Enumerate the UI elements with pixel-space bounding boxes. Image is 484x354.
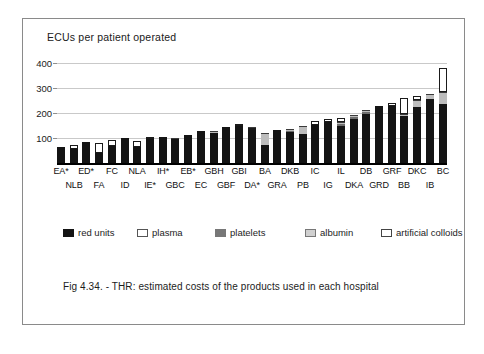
x-axis-label: FC <box>106 166 118 176</box>
bar-segment-albumin <box>299 126 307 134</box>
x-axis-label: GBH <box>204 166 223 176</box>
bar-fc[interactable] <box>108 140 116 163</box>
bar-segment-red-units <box>324 122 332 163</box>
x-axis-label: IH* <box>157 166 169 176</box>
bar-nlb[interactable] <box>70 145 78 163</box>
legend-swatch-icon <box>305 229 316 237</box>
bar-grd[interactable] <box>375 106 383 163</box>
x-axis-label: GRF <box>383 166 402 176</box>
bar-da[interactable] <box>248 127 256 164</box>
bar-gbc[interactable] <box>171 138 179 164</box>
bar-segment-plasma <box>95 143 103 153</box>
legend-item-colloids[interactable]: artificial colloids <box>381 227 463 238</box>
x-axis-label: IB <box>426 180 434 190</box>
bar-segment-red-units <box>388 106 396 163</box>
bar-segment-red-units <box>184 135 192 163</box>
x-axis-label: EA* <box>53 166 68 176</box>
bar-eb[interactable] <box>184 135 192 163</box>
bar-pb[interactable] <box>299 126 307 163</box>
bar-segment-red-units <box>146 139 154 163</box>
legend-label: red units <box>78 227 114 238</box>
chart-legend: red unitsplasmaplateletsalbuminartificia… <box>63 227 463 243</box>
bar-segment-red-units <box>70 149 78 164</box>
x-axis-label: EC <box>195 180 207 190</box>
bar-grf[interactable] <box>388 103 396 163</box>
figure-caption: Fig 4.34. - THR: estimated costs of the … <box>63 281 379 292</box>
bar-segment-red-units <box>261 145 269 164</box>
bar-segment-red-units <box>57 147 65 163</box>
bar-segment-red-units <box>426 99 434 163</box>
x-axis-labels: EA*NLBED*FAFCIDNLAIE*IH*GBCEB*ECGBHGBFGB… <box>57 166 447 200</box>
x-axis-label: IG <box>323 180 332 190</box>
legend-label: artificial colloids <box>396 227 463 238</box>
bar-ea[interactable] <box>57 147 65 163</box>
bar-il[interactable] <box>337 118 345 163</box>
bar-gbf[interactable] <box>222 127 230 163</box>
bar-segment-red-units <box>159 137 167 163</box>
bar-nla[interactable] <box>133 141 141 164</box>
x-axis-label: BA <box>259 166 271 176</box>
legend-item-red[interactable]: red units <box>63 227 114 238</box>
bar-ba[interactable] <box>261 133 269 163</box>
x-axis-label: ID <box>121 180 130 190</box>
legend-label: plasma <box>152 227 183 238</box>
x-axis-label: DB <box>360 166 372 176</box>
bar-dka[interactable] <box>350 115 358 163</box>
bar-segment-red-units <box>439 104 447 163</box>
legend-item-plasma[interactable]: plasma <box>137 227 183 238</box>
bar-ih[interactable] <box>159 137 167 163</box>
legend-item-platelets[interactable]: platelets <box>215 227 265 238</box>
legend-swatch-icon <box>63 229 74 237</box>
x-axis-label: DA* <box>244 180 260 190</box>
legend-swatch-icon <box>381 229 392 237</box>
bar-segment-red-units <box>235 126 243 163</box>
x-axis-label: IC <box>311 166 320 176</box>
bar-gbi[interactable] <box>235 124 243 163</box>
y-tick-label: 200 <box>36 108 52 119</box>
bar-db[interactable] <box>362 110 370 163</box>
bar-ie[interactable] <box>146 137 154 163</box>
bar-gra[interactable] <box>273 130 281 163</box>
x-axis-label: GBI <box>231 166 246 176</box>
bar-ib[interactable] <box>426 94 434 163</box>
x-axis-label: BB <box>398 180 410 190</box>
bar-dkc[interactable] <box>413 96 421 163</box>
bar-ec[interactable] <box>197 131 205 163</box>
x-axis-label: IL <box>337 166 344 176</box>
bar-id[interactable] <box>121 138 129 163</box>
bar-gbh[interactable] <box>210 131 218 163</box>
bar-dkb[interactable] <box>286 129 294 163</box>
bar-segment-red-units <box>350 119 358 164</box>
x-axis-label: DKA <box>345 180 363 190</box>
bar-segment-red-units <box>286 132 294 163</box>
bar-segment-red-units <box>121 138 129 163</box>
bar-segment-albumin <box>439 92 447 104</box>
legend-swatch-icon <box>215 229 226 237</box>
bar-ic[interactable] <box>311 121 319 163</box>
bar-segment-red-units <box>337 126 345 164</box>
bar-bb[interactable] <box>400 98 408 163</box>
x-axis-label: NLA <box>128 166 145 176</box>
bar-ig[interactable] <box>324 119 332 163</box>
bar-segment-red-units <box>210 133 218 163</box>
bar-segment-red-units <box>400 116 408 163</box>
x-axis-label: DKB <box>281 166 299 176</box>
bar-segment-red-units <box>108 146 116 163</box>
bar-segment-red-units <box>248 130 256 163</box>
bar-segment-red-units <box>362 114 370 164</box>
legend-item-albumin[interactable]: albumin <box>305 227 353 238</box>
bar-ed[interactable] <box>82 142 90 164</box>
x-axis-label: BC <box>437 166 449 176</box>
bar-segment-red-units <box>413 107 421 163</box>
bar-segment-red-units <box>197 131 205 163</box>
bar-segment-red-units <box>133 147 141 163</box>
bar-segment-red-units <box>171 139 179 163</box>
y-tick-label: 100 <box>36 133 52 144</box>
bar-segment-red-units <box>273 130 281 163</box>
axis-baseline <box>57 163 447 165</box>
bar-series-container <box>57 63 447 163</box>
bar-fa[interactable] <box>95 143 103 164</box>
y-tick-label: 400 <box>36 58 52 69</box>
bar-bc[interactable] <box>439 68 447 163</box>
plot-area: 100200300400 <box>57 63 447 163</box>
